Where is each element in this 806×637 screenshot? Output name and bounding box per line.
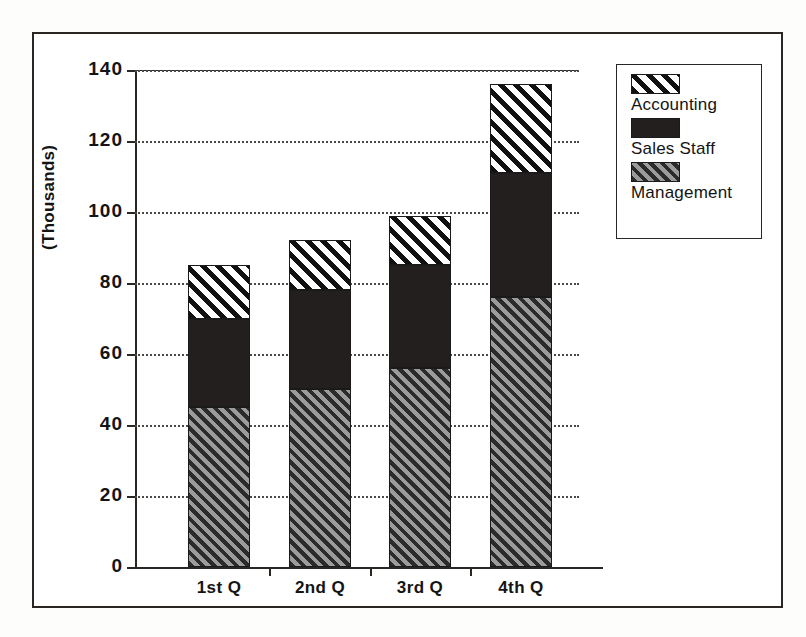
bar-segment-accounting [289,240,351,290]
legend-label: Accounting [631,95,761,115]
x-tick-label-1st-q: 1st Q [164,578,274,598]
bar-segment-accounting [389,216,451,266]
bar-2nd-q [289,240,351,567]
x-tick-mark-0 [269,567,271,576]
x-tick-mark-1 [370,567,372,576]
bar-3rd-q [389,216,451,567]
x-tick-label-3rd-q: 3rd Q [365,578,475,598]
bar-segment-management [188,407,250,567]
hatch-white-swatch [631,74,680,94]
hatch-grey-swatch [631,162,680,182]
legend-item-accounting[interactable]: Accounting [631,74,761,115]
bar-segment-management [389,368,451,567]
x-tick-label-2nd-q: 2nd Q [265,578,375,598]
legend-label: Sales Staff [631,139,761,159]
bar-4th-q [490,84,552,567]
bar-segment-accounting [188,265,250,318]
bar-segment-sales-staff [389,265,451,368]
bar-segment-management [289,389,351,567]
chart-legend: AccountingSales StaffManagement [616,64,762,239]
legend-label: Management [631,183,761,203]
bar-segment-management [490,297,552,567]
legend-item-management[interactable]: Management [631,162,761,203]
x-tick-mark-2 [470,567,472,576]
bar-segment-accounting [490,84,552,173]
solid-black-swatch [631,118,680,138]
bar-segment-sales-staff [490,173,552,297]
bar-segment-sales-staff [289,290,351,389]
bar-1st-q [188,265,250,567]
x-tick-label-4th-q: 4th Q [466,578,576,598]
legend-item-sales-staff[interactable]: Sales Staff [631,118,761,159]
bar-segment-sales-staff [188,319,250,408]
